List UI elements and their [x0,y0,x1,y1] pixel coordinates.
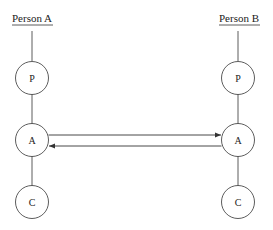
person-a-label: Person A [12,12,52,24]
person-a-adult-label: A [28,135,36,146]
person-b-label: Person B [219,12,259,24]
person-a-parent-label: P [29,73,35,84]
person-b-column: Person B P A C [219,12,260,219]
person-b-adult-label: A [234,135,242,146]
person-a-column: Person A P A C [12,12,53,219]
person-b-parent-label: P [235,73,241,84]
person-b-child-label: C [235,197,242,208]
transactional-analysis-diagram: Person A P A C Person B P A C [0,0,273,230]
person-a-child-label: C [29,197,36,208]
